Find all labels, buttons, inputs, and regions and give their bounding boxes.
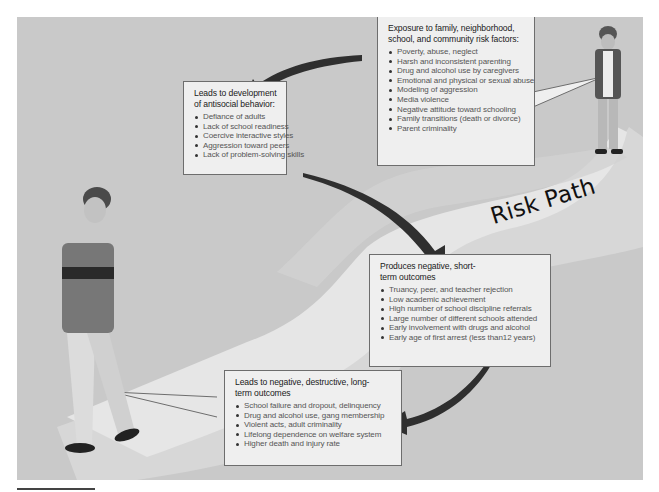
callout-pointer-exposure xyxy=(533,77,602,107)
list-item: Large number of different schools attend… xyxy=(380,314,542,324)
list-item: Poverty, abuse, neglect xyxy=(388,47,526,57)
list-item: High number of school discipline referra… xyxy=(380,304,542,314)
exposure-risk-factors-box: Exposure to family, neighborhood, school… xyxy=(377,17,535,166)
footer-rule xyxy=(17,488,95,490)
antisocial-list: Defiance of adults Lack of school readin… xyxy=(194,112,278,160)
short-term-outcomes-box: Produces negative, short-term outcomes T… xyxy=(369,254,551,367)
list-item: Drug and alcohol use, gang membership xyxy=(235,411,393,421)
list-item: Low academic achievement xyxy=(380,295,542,305)
list-item: Parent criminality xyxy=(388,124,526,134)
list-item: Drug and alcohol use by caregivers xyxy=(388,66,526,76)
list-item: Lack of problem-solving skills xyxy=(194,150,278,160)
list-item: Aggression toward peers xyxy=(194,141,278,151)
short-term-list: Truancy, peer, and teacher rejection Low… xyxy=(380,285,542,343)
list-item: Family transitions (death or divorce) xyxy=(388,114,526,124)
long-term-list: School failure and dropout, delinquency … xyxy=(235,401,393,449)
list-item: Early involvement with drugs and alcohol xyxy=(380,323,542,333)
list-item: Defiance of adults xyxy=(194,112,278,122)
box-title: Exposure to family, neighborhood, school… xyxy=(388,23,526,44)
list-item: Lack of school readiness xyxy=(194,122,278,132)
antisocial-behavior-box: Leads to development of antisocial behav… xyxy=(183,81,287,175)
list-item: Media violence xyxy=(388,95,526,105)
box-title: Produces negative, short-term outcomes xyxy=(380,261,490,282)
list-item: School failure and dropout, delinquency xyxy=(235,401,393,411)
list-item: Negative attitude toward schooling xyxy=(388,105,526,115)
list-item: Higher death and injury rate xyxy=(235,439,393,449)
list-item: Violent acts, adult criminality xyxy=(235,420,393,430)
risk-factor-list: Poverty, abuse, neglect Harsh and incons… xyxy=(388,47,526,133)
diagram-panel: Risk Path Exposure to family, neighborho… xyxy=(17,17,643,480)
list-item: Harsh and inconsistent parenting xyxy=(388,57,526,67)
list-item: Modeling of aggression xyxy=(388,85,526,95)
list-item: Lifelong dependence on welfare system xyxy=(235,430,393,440)
long-term-outcomes-box: Leads to negative, destructive, long-ter… xyxy=(224,370,402,466)
list-item: Coercive interactive styles xyxy=(194,131,278,141)
box-title: Leads to development of antisocial behav… xyxy=(194,88,278,109)
box-title: Leads to negative, destructive, long-ter… xyxy=(235,377,375,398)
list-item: Emotional and physical or sexual abuse xyxy=(388,76,526,86)
list-item: Early age of first arrest (less than12 y… xyxy=(380,333,542,343)
list-item: Truancy, peer, and teacher rejection xyxy=(380,285,542,295)
